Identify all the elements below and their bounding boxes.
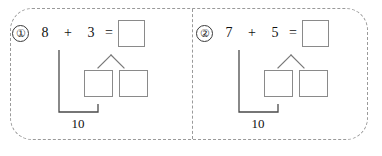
problem-1: ① 8 + 3 = 10 xyxy=(12,8,192,140)
decomp-box-2-left[interactable] xyxy=(264,70,293,97)
plus-operator-1: + xyxy=(57,25,79,41)
addend-1-second: 3 xyxy=(81,25,101,41)
decomp-box-1-left[interactable] xyxy=(84,70,113,97)
problem-divider xyxy=(192,9,193,139)
equals-operator-2: = xyxy=(286,25,300,41)
decomp-box-2-right[interactable] xyxy=(299,70,328,97)
plus-operator-2: + xyxy=(241,25,263,41)
circled-two-icon: ② xyxy=(196,25,213,42)
branch-line-left-1 xyxy=(98,55,111,68)
addend-2-second: 5 xyxy=(265,25,285,41)
addend-1-first: 8 xyxy=(35,25,55,41)
addend-2-first: 7 xyxy=(219,25,239,41)
equation-row-2: ② 7 + 5 = xyxy=(196,18,329,48)
equation-row-1: ① 8 + 3 = xyxy=(12,18,145,48)
circled-one-icon: ① xyxy=(12,25,29,42)
total-label-1: 10 xyxy=(63,116,93,132)
branch-line-right-1 xyxy=(111,55,124,68)
worksheet-canvas: ① 8 + 3 = 10 ② 7 + 5 = xyxy=(0,0,382,156)
equals-operator-1: = xyxy=(102,25,116,41)
branch-line-right-2 xyxy=(291,55,304,68)
total-label-2: 10 xyxy=(243,116,273,132)
problem-2: ② 7 + 5 = 10 xyxy=(196,8,376,140)
decomp-box-1-right[interactable] xyxy=(119,70,148,97)
answer-box-1[interactable] xyxy=(118,20,145,47)
branch-line-left-2 xyxy=(278,55,291,68)
answer-box-2[interactable] xyxy=(302,20,329,47)
